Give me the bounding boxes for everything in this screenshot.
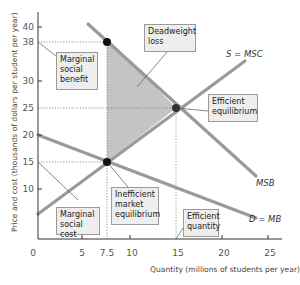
svg-text:15: 15 <box>23 157 34 167</box>
callout-efficient-equilibrium: Efficient equilibrium <box>208 94 258 122</box>
svg-text:25: 25 <box>23 103 34 113</box>
callout-deadweight-loss: Deadweight loss <box>144 24 196 52</box>
callout-inefficient-market-equilibrium: Inefficient market equilibrium <box>111 187 159 225</box>
y-axis-title: Price and cost (thousands of dollars per… <box>10 12 19 232</box>
msb-label: MSB <box>256 178 275 188</box>
svg-text:7.5: 7.5 <box>100 248 114 258</box>
svg-text:0: 0 <box>30 248 36 258</box>
svg-text:40: 40 <box>23 22 35 32</box>
svg-text:38: 38 <box>23 37 35 47</box>
x-axis-title: Quantity (millions of students per year) <box>150 265 300 274</box>
mb-label: D = MB <box>249 214 281 224</box>
svg-text:20: 20 <box>218 248 230 258</box>
callout-efficient-quantity: Efficient quantity <box>183 209 219 237</box>
svg-text:10: 10 <box>126 248 138 258</box>
svg-text:30: 30 <box>23 76 35 86</box>
efficient-equilibrium-point <box>172 104 180 112</box>
msb-at-7.5-point <box>103 38 111 46</box>
svg-text:5: 5 <box>79 248 85 258</box>
deadweight-loss-area <box>107 38 176 162</box>
msc-label: S = MSC <box>226 49 263 59</box>
callout-marginal-social-cost: Marginal social cost <box>56 207 100 235</box>
svg-text:10: 10 <box>23 184 35 194</box>
y-tick-labels: 40 38 30 25 20 15 10 <box>23 22 35 194</box>
svg-text:15: 15 <box>172 248 183 258</box>
callout-marginal-social-benefit: Marginal social benefit <box>56 52 98 90</box>
x-tick-labels: 0 5 7.5 10 15 20 25 <box>30 248 276 258</box>
market-equilibrium-point <box>103 158 111 166</box>
svg-text:20: 20 <box>23 130 35 140</box>
svg-text:25: 25 <box>264 248 275 258</box>
